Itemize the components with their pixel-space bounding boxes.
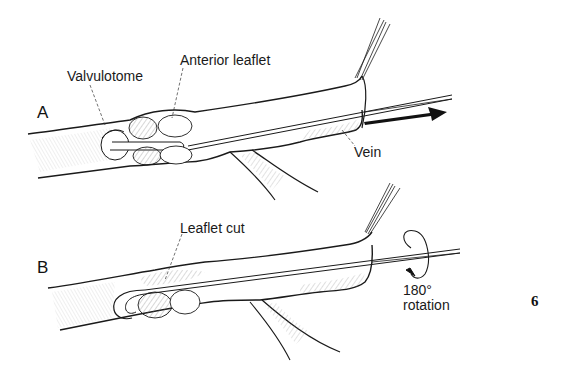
label-leaflet-cut: Leaflet cut [180,221,245,236]
label-valvulotome: Valvulotome [67,69,143,84]
panel-label-b: B [37,258,48,278]
figure-number: 6 [531,293,539,310]
label-vein: Vein [354,145,381,160]
panel-label-a: A [37,103,48,123]
panel-a-drawing [28,18,452,200]
illustration-drawing [0,0,563,383]
label-rotation: rotation [403,298,450,313]
label-anterior-leaflet: Anterior leaflet [180,53,270,68]
label-rotation-degrees: 180° [403,283,432,298]
figure: A B Valvulotome Anterior leaflet Vein Le… [0,0,563,383]
panel-b-drawing [48,183,460,360]
